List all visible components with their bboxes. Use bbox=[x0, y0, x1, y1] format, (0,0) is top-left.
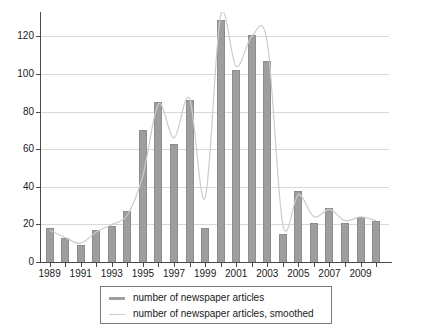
x-tick-mark-2009 bbox=[361, 263, 362, 267]
x-tick-label-2009: 2009 bbox=[341, 268, 381, 279]
x-tick-mark-1998 bbox=[190, 263, 191, 267]
legend-label-articles: number of newspaper articles bbox=[133, 292, 264, 304]
x-tick-mark-2001 bbox=[236, 263, 237, 267]
bar-2002 bbox=[248, 35, 256, 262]
y-tick-mark-0 bbox=[36, 262, 40, 263]
bar-1990 bbox=[61, 238, 69, 262]
bar-2006 bbox=[310, 223, 318, 262]
y-tick-label-80: 80 bbox=[8, 107, 34, 117]
x-tick-mark-1999 bbox=[205, 263, 206, 267]
bar-1998 bbox=[186, 100, 194, 262]
x-tick-mark-1997 bbox=[174, 263, 175, 267]
y-tick-label-40: 40 bbox=[8, 182, 34, 192]
bar-1995 bbox=[139, 130, 147, 262]
legend-label-articles-smoothed: number of newspaper articles, smoothed bbox=[133, 308, 314, 320]
y-tick-label-20: 20 bbox=[8, 219, 34, 229]
x-axis-line bbox=[40, 262, 392, 263]
x-tick-mark-1989 bbox=[50, 263, 51, 267]
bar-2008 bbox=[341, 223, 349, 262]
x-axis-tick-labels: 1989199119931995199719992001200320052007… bbox=[0, 268, 423, 282]
x-tick-mark-1996 bbox=[158, 263, 159, 267]
bar-2000 bbox=[217, 20, 225, 262]
bar-2003 bbox=[263, 61, 271, 262]
legend-item-articles-smoothed: number of newspaper articles, smoothed bbox=[109, 306, 314, 322]
x-tick-mark-2005 bbox=[298, 263, 299, 267]
x-tick-mark-1995 bbox=[143, 263, 144, 267]
x-tick-mark-1992 bbox=[96, 263, 97, 267]
x-tick-mark-2006 bbox=[314, 263, 315, 267]
newspaper-articles-chart: 020406080100120 198919911993199519971999… bbox=[0, 0, 423, 331]
x-tick-mark-1994 bbox=[127, 263, 128, 267]
bar-2004 bbox=[279, 234, 287, 262]
bar-1996 bbox=[154, 102, 162, 262]
bar-1991 bbox=[77, 245, 85, 262]
x-tick-mark-2004 bbox=[283, 263, 284, 267]
bar-1997 bbox=[170, 144, 178, 262]
bar-1989 bbox=[46, 228, 54, 262]
bar-series-layer bbox=[40, 12, 389, 262]
x-tick-mark-2007 bbox=[329, 263, 330, 267]
y-tick-label-120: 120 bbox=[8, 31, 34, 41]
legend-item-articles: number of newspaper articles bbox=[109, 290, 264, 306]
x-tick-mark-2000 bbox=[221, 263, 222, 267]
y-tick-label-100: 100 bbox=[8, 69, 34, 79]
bar-2010 bbox=[372, 221, 380, 262]
x-tick-mark-2008 bbox=[345, 263, 346, 267]
x-tick-mark-2002 bbox=[252, 263, 253, 267]
bar-2007 bbox=[325, 208, 333, 263]
bar-1992 bbox=[92, 230, 100, 262]
legend-bar-swatch-icon bbox=[109, 297, 125, 300]
x-tick-mark-2010 bbox=[376, 263, 377, 267]
legend-line-swatch-icon bbox=[109, 314, 125, 315]
x-tick-mark-1990 bbox=[65, 263, 66, 267]
bar-2005 bbox=[294, 191, 302, 262]
y-tick-label-60: 60 bbox=[8, 144, 34, 154]
y-tick-label-0: 0 bbox=[8, 257, 34, 267]
bar-1994 bbox=[123, 211, 131, 262]
x-tick-mark-1991 bbox=[81, 263, 82, 267]
bar-1999 bbox=[201, 228, 209, 262]
x-tick-mark-1993 bbox=[112, 263, 113, 267]
bar-2009 bbox=[357, 217, 365, 262]
bar-1993 bbox=[108, 226, 116, 262]
x-tick-mark-2003 bbox=[267, 263, 268, 267]
chart-legend: number of newspaper articles number of n… bbox=[100, 286, 332, 324]
bar-2001 bbox=[232, 70, 240, 262]
